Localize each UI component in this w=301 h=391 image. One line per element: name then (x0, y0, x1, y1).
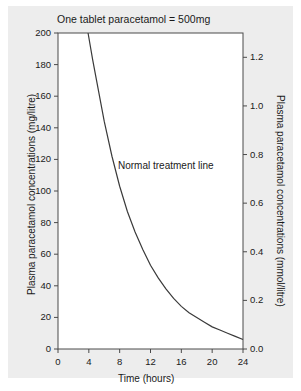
y-tick-right-1.0: 1.0 (250, 101, 280, 111)
y-axis-left-ticks (54, 33, 58, 349)
chart-figure: One tablet paracetamol = 500mg Normal tr… (0, 0, 301, 391)
y-tick-left-40: 40 (18, 281, 51, 291)
y-tick-left-140: 140 (18, 123, 51, 133)
y-tick-left-160: 160 (18, 91, 51, 101)
y-tick-left-120: 120 (18, 154, 51, 164)
y-tick-left-80: 80 (18, 218, 51, 228)
x-tick-24: 24 (228, 357, 258, 367)
y-tick-left-60: 60 (18, 249, 51, 259)
y-tick-right-0.2: 0.2 (250, 295, 280, 305)
chart-title: One tablet paracetamol = 500mg (57, 14, 210, 25)
y-tick-right-0.4: 0.4 (250, 247, 280, 257)
x-tick-12: 12 (136, 357, 166, 367)
y-tick-left-200: 200 (18, 28, 51, 38)
curve-annotation-label: Normal treatment line (118, 161, 214, 171)
x-tick-20: 20 (197, 357, 227, 367)
y-tick-right-0.0: 0.0 (250, 344, 280, 354)
x-axis-title: Time (hours) (118, 374, 174, 384)
y-tick-right-0.6: 0.6 (250, 198, 280, 208)
x-tick-0: 0 (43, 357, 73, 367)
y-tick-left-100: 100 (18, 186, 51, 196)
plot-frame (58, 33, 243, 349)
y-tick-left-180: 180 (18, 60, 51, 70)
x-tick-16: 16 (166, 357, 196, 367)
y-axis-right-title: Plasma paracetamol concentrations (mmol/… (275, 95, 285, 295)
y-axis-right-ticks (243, 57, 247, 349)
x-axis-ticks (58, 349, 243, 353)
x-tick-8: 8 (105, 357, 135, 367)
y-tick-right-0.8: 0.8 (250, 150, 280, 160)
y-tick-left-20: 20 (18, 312, 51, 322)
x-tick-4: 4 (74, 357, 104, 367)
y-tick-right-1.2: 1.2 (250, 52, 280, 62)
y-tick-left-0: 0 (18, 344, 51, 354)
